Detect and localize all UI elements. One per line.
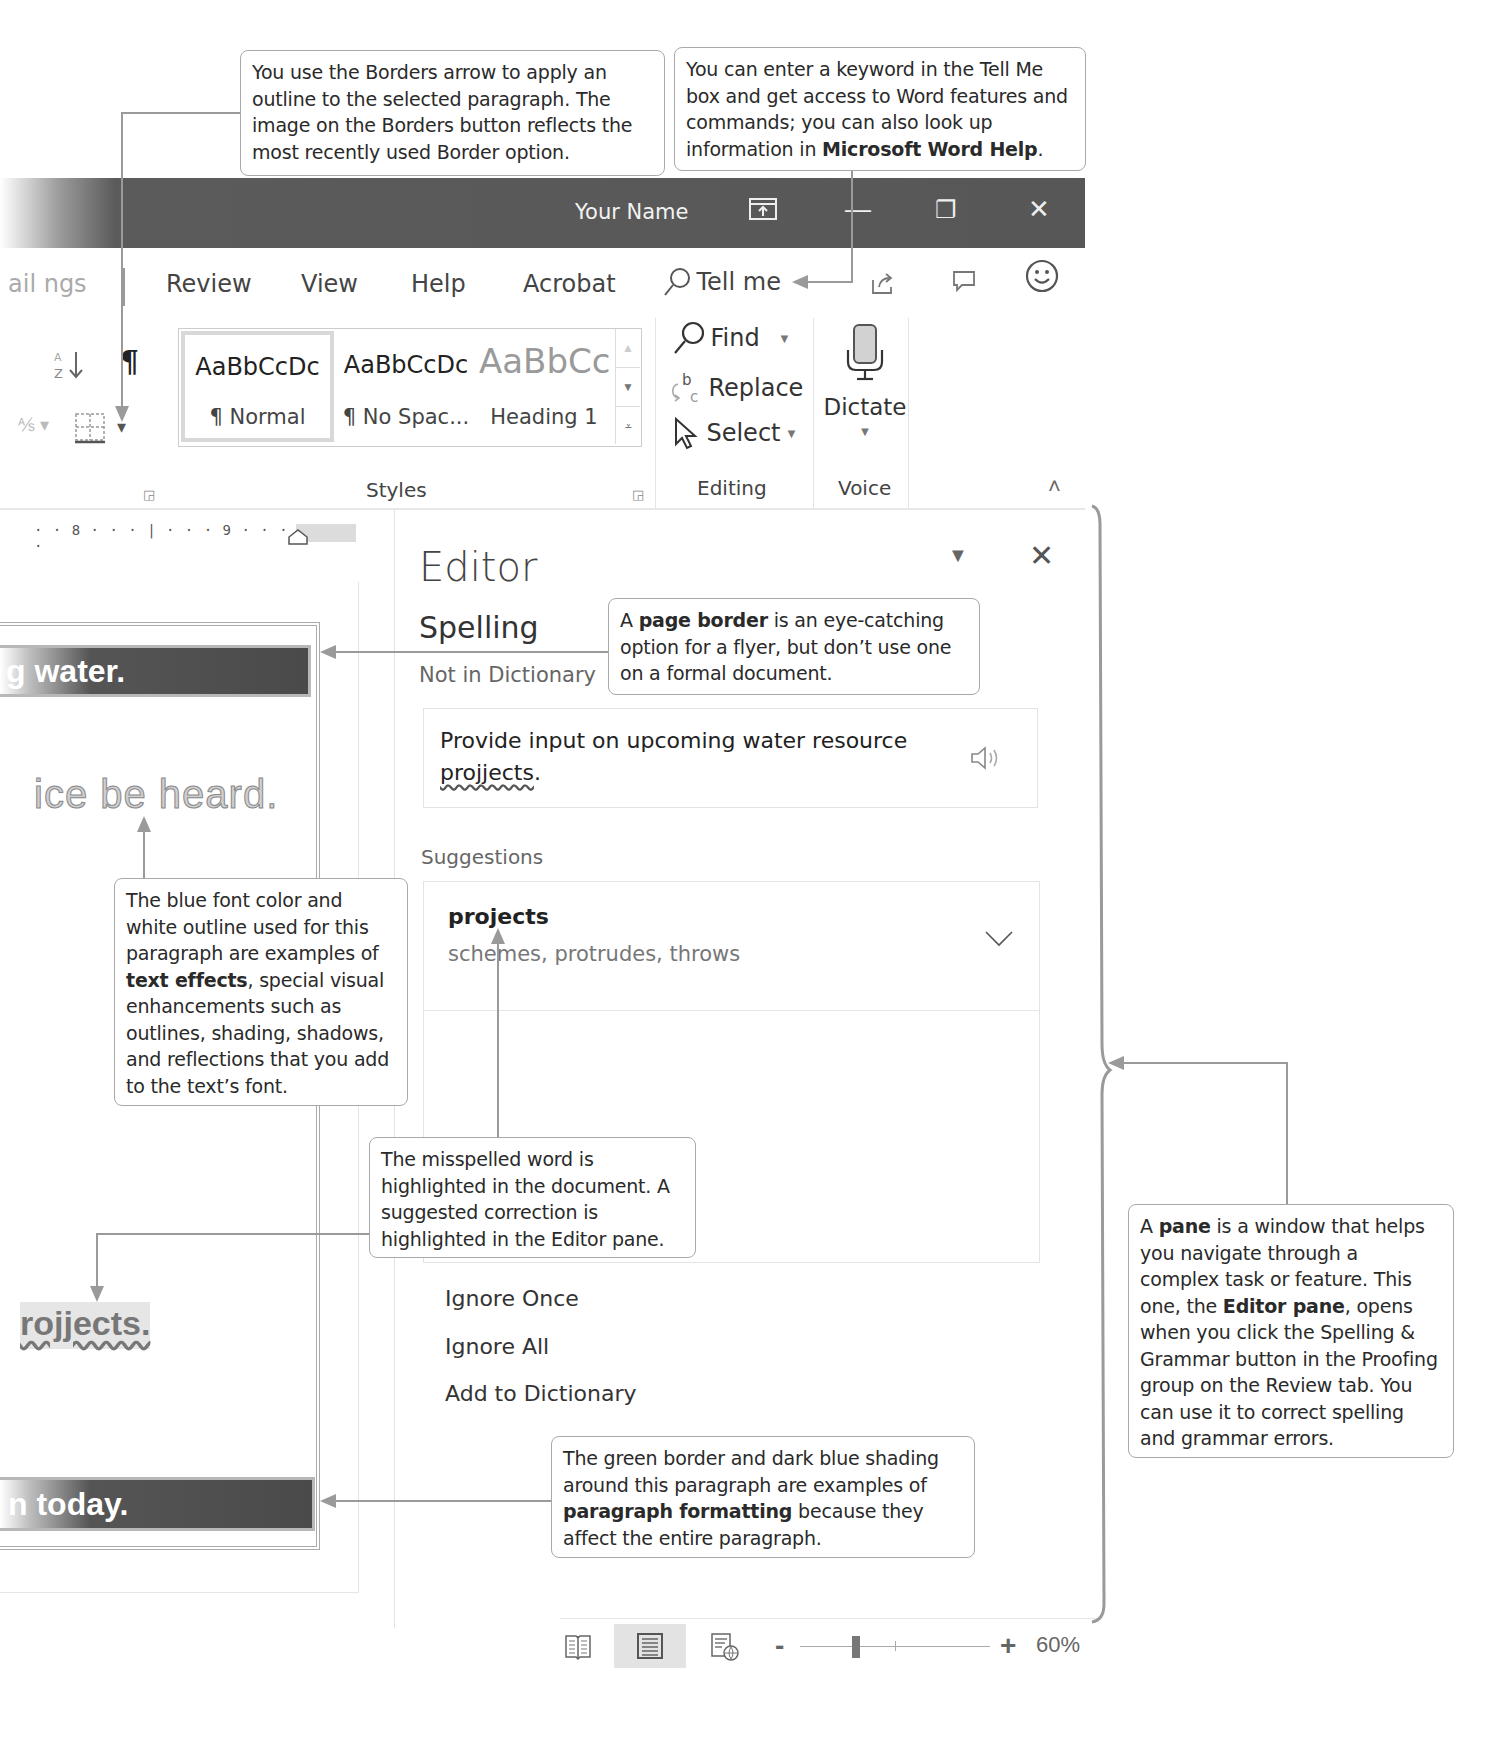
collapse-ribbon-icon[interactable]: ˄ [1048, 474, 1061, 500]
style-name: ¶ No Spac... [331, 405, 481, 429]
dictate-dropdown-icon[interactable]: ▼ [820, 424, 910, 439]
style-heading-1[interactable]: AaBbCc Heading 1 [479, 329, 609, 444]
callout-text: The misspelled word is highlighted in th… [381, 1148, 670, 1250]
styles-gallery: AaBbCcDc ¶ Normal AaBbCcDc ¶ No Spac... … [178, 328, 642, 447]
leader-arrow [491, 928, 505, 944]
svg-text:Z: Z [54, 366, 63, 381]
search-icon [662, 266, 692, 298]
callout-text-effects: The blue font color and white outline us… [114, 878, 408, 1106]
leader-line [96, 1233, 370, 1235]
scroll-down-icon[interactable]: ▼ [616, 367, 640, 406]
callout-term: Editor pane [1223, 1295, 1345, 1317]
group-divider [908, 318, 909, 508]
feedback-smiley-icon[interactable] [1024, 258, 1060, 298]
scroll-up-icon[interactable]: ▲ [616, 329, 640, 367]
web-layout-icon[interactable] [710, 1632, 740, 1666]
select-dropdown-icon[interactable]: ▼ [785, 426, 798, 441]
shaded-paragraph-bottom: n today. [0, 1480, 312, 1528]
callout-page-border: A page border is an eye-catching option … [608, 598, 980, 695]
callout-text: A [1140, 1215, 1159, 1237]
read-aloud-speaker-icon[interactable] [968, 743, 1004, 777]
style-no-spacing[interactable]: AaBbCcDc ¶ No Spac... [331, 329, 481, 444]
text-effects-paragraph: ice be heard. [34, 772, 278, 817]
zoom-level[interactable]: 60% [1036, 1632, 1080, 1658]
leader-line [121, 112, 123, 410]
comments-icon[interactable] [951, 268, 977, 298]
zoom-in-button[interactable]: + [1000, 1630, 1016, 1662]
dictate-button[interactable]: Dictate ▼ [820, 322, 910, 439]
ignore-all-button[interactable]: Ignore All [445, 1334, 549, 1359]
suggestion-word: projects [448, 904, 549, 929]
find-button[interactable]: Find ▼ [672, 320, 791, 356]
callout-term: pane [1159, 1215, 1211, 1237]
select-label: Select [706, 419, 780, 447]
style-normal[interactable]: AaBbCcDc ¶ Normal [181, 331, 334, 442]
suggestion-item-projects[interactable]: projects schemes, protrudes, throws [424, 882, 1039, 1011]
tell-me-label: Tell me [696, 268, 780, 296]
tab-help[interactable]: Help [411, 270, 466, 298]
print-layout-icon [636, 1632, 664, 1660]
callout-text: , opens when you click the Spelling & Gr… [1140, 1295, 1438, 1450]
callout-paragraph-formatting: The green border and dark blue shading a… [551, 1436, 975, 1558]
pane-options-dropdown-icon[interactable]: ▼ [948, 544, 968, 567]
leader-arrow [320, 645, 336, 659]
tell-me-search[interactable]: Tell me [662, 266, 781, 298]
dialog-launcher-icon[interactable]: ◲ [143, 487, 155, 502]
tab-review[interactable]: Review [166, 270, 252, 298]
tab-view[interactable]: View [301, 270, 358, 298]
print-layout-button[interactable] [614, 1624, 686, 1668]
zoom-out-button[interactable]: - [775, 1630, 784, 1662]
callout-term: page border [639, 609, 768, 631]
select-cursor-icon [672, 416, 702, 450]
read-mode-icon[interactable] [564, 1632, 592, 1666]
tab-separator [123, 268, 125, 306]
leader-arrow [90, 1286, 104, 1302]
context-end: . [534, 760, 541, 785]
zoom-slider[interactable] [800, 1646, 990, 1647]
close-icon[interactable]: ✕ [1028, 194, 1050, 225]
callout-term: text effects [126, 969, 247, 991]
tab-acrobat[interactable]: Acrobat [523, 270, 616, 298]
sort-icon[interactable]: AZ [52, 348, 88, 388]
callout-tell-me: You can enter a keyword in the Tell Me b… [674, 47, 1086, 171]
minimize-icon[interactable]: — [845, 194, 871, 225]
context-sentence: Provide input on upcoming water resource [440, 728, 907, 753]
find-label: Find [710, 324, 759, 352]
find-dropdown-icon[interactable]: ▼ [778, 331, 791, 346]
leader-arrow [137, 816, 151, 832]
restore-icon[interactable]: ❐ [935, 196, 957, 224]
document-text: g water. [6, 653, 125, 689]
add-to-dictionary-button[interactable]: Add to Dictionary [445, 1381, 637, 1406]
replace-button[interactable]: bc Replace [668, 370, 803, 406]
ribbon-display-options-icon[interactable] [748, 196, 778, 229]
right-indent-marker[interactable] [287, 528, 309, 546]
select-button[interactable]: Select ▼ [672, 416, 798, 450]
zoom-100-tick [895, 1641, 896, 1651]
callout-term: Microsoft Word Help [822, 138, 1037, 160]
context-misspelled-word: projjects [440, 760, 534, 785]
callout-text: . [1038, 138, 1044, 160]
leader-line [1120, 1062, 1288, 1064]
misspelled-word[interactable]: rojjects. [20, 1302, 150, 1349]
style-sample: AaBbCc [479, 341, 609, 381]
tab-mailings[interactable]: ail ngs [8, 270, 87, 298]
horizontal-ruler[interactable]: · · 8 · · · | · · · 9 · · · | · · · [0, 522, 356, 544]
share-icon[interactable] [870, 270, 896, 300]
issue-type: Not in Dictionary [419, 663, 596, 687]
borders-button[interactable] [74, 412, 106, 448]
ignore-once-button[interactable]: Ignore Once [445, 1286, 579, 1311]
pane-close-icon[interactable]: ✕ [1029, 538, 1054, 573]
group-divider [813, 318, 814, 508]
more-styles-icon[interactable]: ⩡ [616, 406, 640, 445]
editing-group-label: Editing [697, 476, 767, 500]
zoom-slider-thumb[interactable] [852, 1636, 860, 1658]
callout-text: The blue font color and white outline us… [126, 889, 379, 964]
document-text: n today. [8, 1486, 128, 1522]
leader-line [1286, 1062, 1288, 1204]
pane-title: Editor [419, 544, 537, 590]
shading-icon[interactable]: ⅍ ▾ [18, 414, 49, 436]
expand-chevron-down-icon[interactable] [984, 930, 1014, 952]
styles-dialog-launcher-icon[interactable]: ◲ [632, 487, 644, 502]
style-name: ¶ Normal [185, 405, 330, 429]
styles-scroll[interactable]: ▲ ▼ ⩡ [615, 329, 640, 444]
